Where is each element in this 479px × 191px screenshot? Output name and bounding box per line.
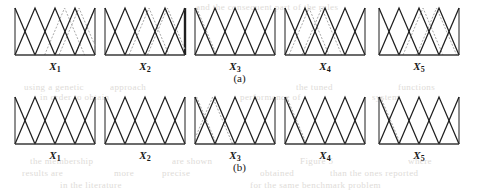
mf-panel-b5: X5	[377, 95, 461, 167]
mf-solid-triangle	[419, 8, 459, 55]
panel-row-b: X1X2X3X4X5	[0, 95, 479, 167]
mf-solid-triangle	[145, 8, 185, 55]
mf-plot-a2	[103, 6, 187, 58]
variable-label-base: X	[139, 149, 146, 161]
variable-label-base: X	[229, 149, 236, 161]
mf-plot-b2	[103, 95, 187, 147]
mf-solid-triangle	[325, 97, 365, 144]
mf-panel-a4: X4	[283, 6, 367, 78]
mf-solid-triangle	[15, 8, 55, 55]
mf-plot-a1	[13, 6, 97, 58]
mf-solid-triangle	[105, 97, 145, 144]
mf-plot-a4	[283, 6, 367, 58]
mf-solid-triangle	[399, 97, 439, 144]
mf-plot-a5	[377, 6, 461, 58]
subfigure-caption-a: (a)	[0, 72, 479, 84]
mf-panel-a2: X2	[103, 6, 187, 78]
mf-solid-triangle	[125, 97, 165, 144]
mf-solid-triangle	[305, 97, 345, 144]
variable-label-base: X	[319, 149, 326, 161]
mf-panel-a5: X5	[377, 6, 461, 78]
mf-panel-b2: X2	[103, 95, 187, 167]
subfigure-caption-b: (b)	[0, 161, 479, 173]
mf-solid-triangle	[285, 97, 325, 144]
variable-label-base: X	[49, 149, 56, 161]
mf-solid-triangle	[215, 97, 255, 144]
mf-panel-b1: X1	[13, 95, 97, 167]
variable-label-base: X	[319, 60, 326, 72]
mf-solid-triangle	[235, 97, 275, 144]
mf-solid-triangle	[145, 97, 185, 144]
variable-label-base: X	[413, 149, 420, 161]
mf-panel-b4: X4	[283, 95, 367, 167]
mf-plot-b4	[283, 95, 367, 147]
mf-solid-triangle	[195, 97, 235, 144]
mf-solid-triangle	[215, 8, 255, 55]
mf-plot-b1	[13, 95, 97, 147]
variable-label-base: X	[49, 60, 56, 72]
mf-solid-triangle	[195, 8, 235, 55]
variable-label-base: X	[139, 60, 146, 72]
panel-row-a: X1X2X3X4X5	[0, 6, 479, 78]
mf-solid-triangle	[325, 8, 365, 55]
mf-solid-triangle	[55, 97, 95, 144]
mf-solid-triangle	[35, 97, 75, 144]
mf-solid-triangle	[235, 8, 275, 55]
mf-panel-a1: X1	[13, 6, 97, 78]
mf-plot-b3	[193, 95, 277, 147]
variable-label-base: X	[413, 60, 420, 72]
mf-plot-a3	[193, 6, 277, 58]
figure-membership-functions: X1X2X3X4X5 (a) X1X2X3X4X5 (b)	[0, 0, 479, 191]
mf-panel-b3: X3	[193, 95, 277, 167]
mf-panel-a3: X3	[193, 6, 277, 78]
mf-plot-b5	[377, 95, 461, 147]
mf-solid-triangle	[15, 97, 55, 144]
variable-label-base: X	[229, 60, 236, 72]
mf-solid-triangle	[419, 97, 459, 144]
mf-solid-triangle	[379, 97, 419, 144]
